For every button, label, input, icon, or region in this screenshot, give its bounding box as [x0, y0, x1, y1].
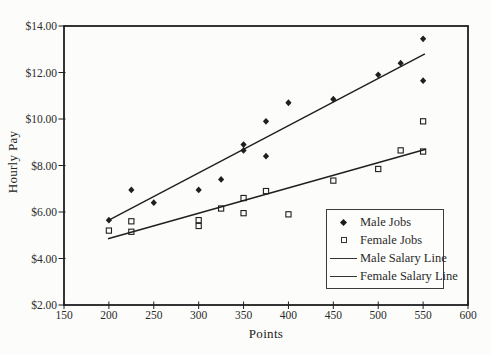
- y-tick-label: $6.00: [31, 206, 57, 218]
- x-tick-label: 250: [145, 309, 163, 321]
- female-jobs-point: [376, 166, 381, 171]
- female-jobs-point: [241, 211, 246, 216]
- y-tick-label: $14.00: [25, 20, 57, 32]
- male-jobs-point: [240, 141, 246, 148]
- line-sample-icon: [327, 276, 360, 277]
- y-axis-title: Hourly Pay: [5, 131, 21, 194]
- male-jobs-point: [151, 199, 157, 206]
- x-tick-label: 150: [55, 309, 73, 321]
- x-tick-label: 500: [370, 309, 388, 321]
- x-tick-label: 200: [100, 309, 118, 321]
- legend-item-female-salary-line: Female Salary Line: [327, 267, 443, 285]
- female-jobs-point: [106, 228, 111, 233]
- x-tick-label: 300: [190, 309, 208, 321]
- male-jobs-point: [263, 153, 269, 160]
- x-tick-label: 550: [414, 309, 432, 321]
- filled-diamond-icon: [327, 220, 360, 225]
- line-sample-icon: [327, 258, 360, 259]
- plot-canvas: 150200250300350400450500550600$14.00$12.…: [0, 0, 491, 354]
- x-tick-label: 350: [235, 309, 253, 321]
- legend-item-female-jobs: Female Jobs: [327, 231, 443, 249]
- male-jobs-point: [218, 176, 224, 183]
- y-tick-label: $4.00: [31, 253, 57, 265]
- x-axis-title: Points: [249, 326, 283, 342]
- male-jobs-point: [285, 99, 291, 106]
- female-jobs-point: [398, 148, 403, 153]
- female-jobs-point: [286, 212, 291, 217]
- y-tick-label: $8.00: [31, 160, 57, 172]
- y-tick-label: $10.00: [25, 113, 57, 125]
- legend-label: Male Jobs: [360, 215, 411, 230]
- male-jobs-point: [106, 217, 112, 224]
- female-jobs-point: [196, 218, 201, 223]
- female-jobs-point: [421, 119, 426, 124]
- female-jobs-point: [331, 178, 336, 183]
- x-tick-label: 400: [280, 309, 298, 321]
- female-jobs-point: [129, 219, 134, 224]
- male-jobs-point: [263, 118, 269, 125]
- male-salary-line: [109, 54, 425, 220]
- y-tick-label: $12.00: [25, 67, 57, 79]
- legend-item-male-salary-line: Male Salary Line: [327, 249, 443, 267]
- male-jobs-point: [420, 35, 426, 42]
- male-jobs-point: [196, 187, 202, 194]
- legend-label: Male Salary Line: [360, 251, 447, 266]
- legend-label: Female Salary Line: [360, 269, 458, 284]
- salary-scatter-chart: 150200250300350400450500550600$14.00$12.…: [0, 0, 491, 354]
- legend-item-male-jobs: Male Jobs: [327, 213, 443, 231]
- x-tick-label: 600: [459, 309, 477, 321]
- male-jobs-point: [420, 77, 426, 84]
- female-jobs-point: [196, 223, 201, 228]
- open-square-icon: [327, 237, 360, 243]
- male-jobs-point: [128, 187, 134, 194]
- legend: Male Jobs Female Jobs Male Salary Line F…: [326, 209, 444, 289]
- legend-label: Female Jobs: [360, 233, 422, 248]
- x-tick-label: 450: [325, 309, 343, 321]
- y-tick-label: $2.00: [31, 299, 57, 311]
- female-jobs-point: [263, 188, 268, 193]
